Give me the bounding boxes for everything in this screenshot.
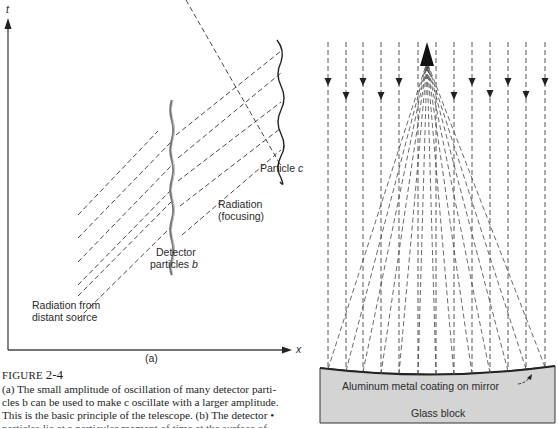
figure-caption: FIGURE 2-4 (a) The small amplitude of os…	[2, 368, 304, 428]
figure-heading: FIGURE 2-4	[2, 368, 304, 382]
focal-point-icon	[420, 42, 434, 66]
particle-c-label: Particle c	[260, 162, 304, 174]
caption-line-cut: particles lie at a particular moment of …	[2, 422, 304, 428]
t-axis-arrow-icon	[5, 18, 12, 29]
x-axis-arrow-icon	[282, 347, 292, 354]
incoming-radiation-lines	[78, 131, 172, 319]
arrow-down-icon	[360, 78, 367, 86]
glass-block-label: Glass block	[411, 407, 466, 419]
arrow-down-icon	[378, 92, 385, 100]
figure-number: 2-4	[46, 367, 63, 382]
panel-b: Aluminum metal coating on mirror Glass b…	[320, 42, 555, 423]
arrow-down-icon	[469, 78, 476, 86]
radiation-focusing-label: Radiation	[218, 198, 263, 210]
arrow-down-icon	[542, 78, 549, 86]
arrow-down-icon	[505, 78, 512, 86]
panel-a-sublabel: (a)	[145, 352, 158, 364]
t-axis-label: t	[6, 3, 10, 15]
detector-label: Detector	[156, 246, 196, 258]
caption-line: This is the basic principle of the teles…	[2, 409, 304, 422]
arrow-down-icon	[523, 91, 530, 99]
arrow-down-icon	[343, 92, 350, 100]
reflected-rays	[328, 62, 545, 375]
arrow-down-icon	[325, 78, 332, 86]
source-label: Radiation from	[32, 299, 101, 311]
radiation-focusing-label-2: (focusing)	[218, 210, 264, 222]
caption-line: (a) The small amplitude of oscillation o…	[2, 383, 304, 396]
x-axis-label: x	[295, 343, 302, 355]
mirror-label: Aluminum metal coating on mirror	[342, 380, 499, 392]
t-axis: t	[5, 3, 12, 350]
detector-label-2: particles b	[150, 258, 198, 270]
source-label-2: distant source	[32, 311, 98, 323]
arrow-down-icon	[396, 78, 403, 86]
panel-a: t x	[5, 0, 304, 364]
arrow-down-icon	[451, 92, 458, 100]
arrow-down-icon	[487, 90, 494, 98]
caption-line: cles b can be used to make c oscillate w…	[2, 396, 304, 409]
figure-label: FIGURE	[2, 369, 43, 381]
